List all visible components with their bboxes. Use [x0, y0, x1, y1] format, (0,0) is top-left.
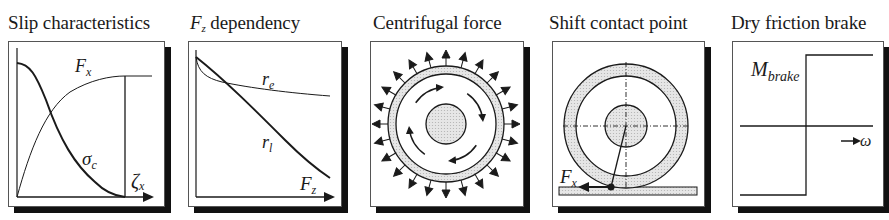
centrifugal-diagram — [372, 50, 520, 198]
hub — [426, 104, 466, 144]
shift-contact-diagram — [559, 62, 697, 195]
label-m-brake: Mbrake — [750, 58, 800, 84]
label-sigma-c: σc — [82, 148, 97, 172]
label-re: re — [262, 69, 275, 92]
label-zeta-x: ζx — [131, 170, 145, 193]
diagram-canvas: Fx σc ζx re rl Fz — [0, 0, 889, 220]
contact-point — [608, 184, 615, 191]
label-omega: ω — [860, 132, 871, 149]
sigma-curve — [17, 63, 125, 197]
label-fx: Fx — [74, 56, 92, 79]
label-fx-shift: Fx — [559, 166, 578, 190]
label-fz: Fz — [299, 173, 317, 197]
label-rl: rl — [262, 132, 273, 155]
